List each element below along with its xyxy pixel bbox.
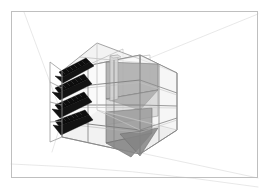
screenshot-canvas: 3D Architectural Massing Model Multi-sto… (0, 0, 272, 195)
architectural-scene (0, 0, 272, 195)
